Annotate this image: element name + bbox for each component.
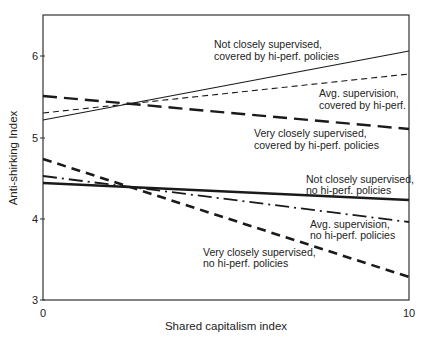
x-axis-title: Shared capitalism index [165,320,287,332]
y-axis-title: Anti-shirking Index [7,110,19,205]
x-tick-10: 10 [403,307,415,319]
line-chart: 3 4 5 6 Anti-shirking Index 0 10 Shared … [0,0,426,346]
y-tick-3: 3 [32,294,38,306]
label-very-closely-covered-1: Very closely supervised, [254,127,367,139]
annotations: Not closely supervised, covered by hi-pe… [203,38,414,269]
y-tick-6: 6 [32,50,38,62]
label-avg-no-hiperf-2: no hi-perf. policies [310,229,395,241]
x-axis: 0 10 Shared capitalism index [40,307,415,332]
label-not-closely-covered-1: Not closely supervised, [214,38,322,50]
series-lines [43,51,409,277]
label-very-closely-no-hiperf-2: no hi-perf. policies [203,257,288,269]
label-not-closely-no-hiperf-2: no hi-perf. policies [306,184,391,196]
x-tick-0: 0 [40,307,46,319]
label-not-closely-covered-2: covered by hi-perf. policies [214,50,339,62]
y-tick-5: 5 [32,132,38,144]
label-avg-covered-1: Avg. supervision, [319,87,399,99]
label-avg-covered-2: covered by hi-perf. [319,99,406,111]
y-axis: 3 4 5 6 Anti-shirking Index [7,50,45,306]
label-very-closely-covered-2: covered by hi-perf. policies [254,139,379,151]
y-tick-4: 4 [32,213,38,225]
